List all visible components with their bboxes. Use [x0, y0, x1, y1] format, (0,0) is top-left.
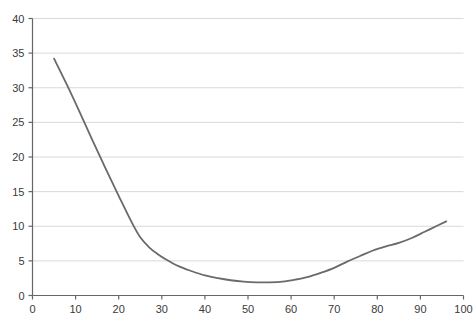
- y-tick-label-15: 15: [12, 186, 24, 198]
- x-tick-label-70: 70: [328, 303, 340, 315]
- x-tick-label-90: 90: [414, 303, 426, 315]
- x-tick-label-20: 20: [113, 303, 125, 315]
- line-chart: 0510152025303540 0102030405060708090100: [0, 0, 476, 326]
- y-tick-label-30: 30: [12, 82, 24, 94]
- x-tick-label-30: 30: [156, 303, 168, 315]
- y-tick-label-5: 5: [18, 255, 24, 267]
- x-tick-label-100: 100: [454, 303, 472, 315]
- x-axis-labels-group: 0102030405060708090100: [29, 303, 472, 315]
- y-tick-label-40: 40: [12, 13, 24, 25]
- gridlines-group: [33, 19, 464, 261]
- x-tick-label-80: 80: [371, 303, 383, 315]
- y-tick-label-25: 25: [12, 116, 24, 128]
- x-tick-label-10: 10: [69, 303, 81, 315]
- chart-container: 0510152025303540 0102030405060708090100: [0, 0, 476, 326]
- y-tick-label-20: 20: [12, 151, 24, 163]
- x-tick-label-60: 60: [285, 303, 297, 315]
- y-axis-labels-group: 0510152025303540: [12, 13, 24, 302]
- data-series-group: [54, 59, 446, 283]
- x-tick-label-50: 50: [242, 303, 254, 315]
- series-line-0: [54, 59, 446, 283]
- y-tick-label-0: 0: [18, 290, 24, 302]
- y-tick-label-10: 10: [12, 220, 24, 232]
- x-tick-label-0: 0: [29, 303, 35, 315]
- y-tick-label-35: 35: [12, 47, 24, 59]
- x-tick-label-40: 40: [199, 303, 211, 315]
